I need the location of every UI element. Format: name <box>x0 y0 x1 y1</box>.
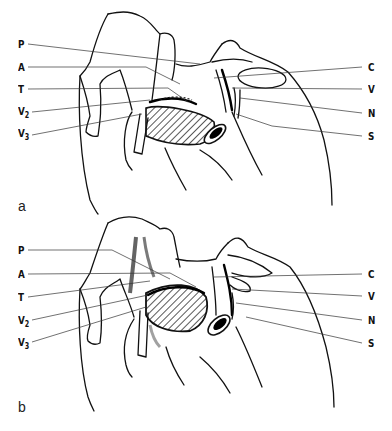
label-V-a: V <box>368 84 375 95</box>
anatomical-drawing-b <box>0 207 392 431</box>
panel-a: P A T V2 V3 C V N S a <box>0 0 392 215</box>
label-P-b: P <box>18 245 24 256</box>
label-V2-b: V2 <box>18 315 29 330</box>
label-C-a: C <box>368 62 374 73</box>
anatomical-drawing-a <box>0 0 392 215</box>
label-V3-b: V3 <box>18 337 29 352</box>
label-N-b: N <box>368 315 375 326</box>
label-V3-a: V3 <box>18 128 29 143</box>
panel-label-b: b <box>18 399 26 415</box>
label-S-b: S <box>368 338 374 349</box>
label-S-a: S <box>368 131 374 142</box>
label-A-a: A <box>18 62 25 73</box>
label-T-b: T <box>18 292 24 303</box>
label-V2-a: V2 <box>18 106 29 121</box>
label-N-a: N <box>368 108 375 119</box>
label-A-b: A <box>18 269 25 280</box>
panel-b: P A T V2 V3 C V N S b <box>0 207 392 431</box>
label-P-a: P <box>18 39 24 50</box>
label-V-b: V <box>368 291 375 302</box>
label-T-a: T <box>18 84 24 95</box>
label-C-b: C <box>368 269 374 280</box>
